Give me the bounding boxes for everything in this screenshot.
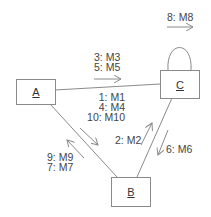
self-loop-c <box>168 48 191 71</box>
object-c[interactable]: C <box>160 70 200 99</box>
message: 5: M5 <box>94 62 120 72</box>
object-a-label: A <box>32 86 39 98</box>
arrow-b-to-c <box>141 123 152 145</box>
message: 10: M10 <box>85 112 125 122</box>
label-c-self: 8: M8 <box>167 12 193 22</box>
message: 7: M7 <box>47 162 73 172</box>
message: 2: M2 <box>115 135 141 145</box>
link-a-c <box>55 84 160 90</box>
label-a-to-b: 1: M1 4: M4 10: M10 <box>85 92 125 122</box>
label-c-to-b: 6: M6 <box>166 144 192 154</box>
label-b-to-c: 2: M2 <box>115 135 141 145</box>
message: 6: M6 <box>166 144 192 154</box>
object-c-label: C <box>176 79 184 91</box>
arrow-a-to-b <box>80 128 98 145</box>
link-c-b <box>137 98 172 177</box>
object-b[interactable]: B <box>111 177 151 207</box>
label-a-to-c: 3: M3 5: M5 <box>94 52 120 72</box>
object-b-label: B <box>127 186 134 198</box>
message: 8: M8 <box>167 12 193 22</box>
label-b-to-a: 9: M9 7: M7 <box>47 152 73 172</box>
object-a[interactable]: A <box>16 79 56 105</box>
